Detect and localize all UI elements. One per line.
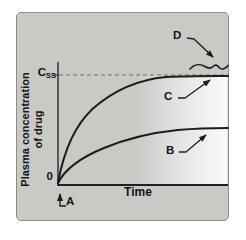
y-axis-label-line2: of drug xyxy=(31,111,43,149)
x-axis-label: Time xyxy=(98,186,178,199)
css-label-subscript: SS xyxy=(46,71,56,80)
origin-label: 0 xyxy=(41,170,53,183)
css-label: CSS xyxy=(26,66,56,80)
annotation-b: B xyxy=(166,144,174,157)
arrow-d-icon xyxy=(187,38,213,57)
css-label-main: C xyxy=(38,66,46,78)
curve-d-wavy xyxy=(190,65,228,69)
y-axis-label-line1: Plasma concentration xyxy=(19,72,31,186)
annotation-a: A xyxy=(66,195,74,208)
annotation-d: D xyxy=(173,29,181,42)
annotation-c: C xyxy=(164,90,172,103)
